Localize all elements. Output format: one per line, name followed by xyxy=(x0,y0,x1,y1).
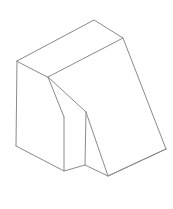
drawing-canvas xyxy=(0,0,173,209)
isometric-solid-svg xyxy=(0,0,173,209)
face-notch-inner-left xyxy=(64,112,86,171)
